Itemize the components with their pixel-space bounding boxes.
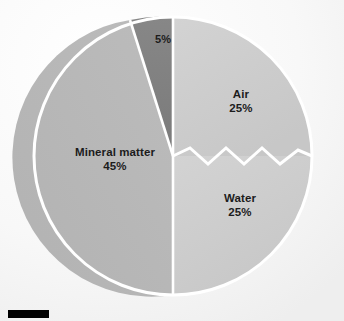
pie-chart-figure: Air 25% Water 25% Mineral matter 45% 5% xyxy=(0,0,344,321)
pie-chart-svg xyxy=(0,0,344,321)
scale-bar xyxy=(8,310,49,318)
